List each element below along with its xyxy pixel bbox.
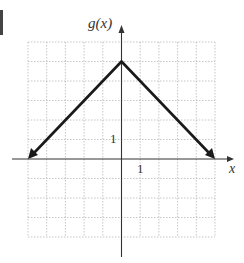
y-axis-arrow-icon bbox=[119, 25, 125, 33]
graph bbox=[0, 0, 244, 263]
x-tick-label: 1 bbox=[137, 161, 144, 177]
y-tick-label: 1 bbox=[110, 131, 117, 147]
x-axis-label: x bbox=[229, 161, 235, 177]
y-axis-label: g(x) bbox=[88, 15, 112, 32]
